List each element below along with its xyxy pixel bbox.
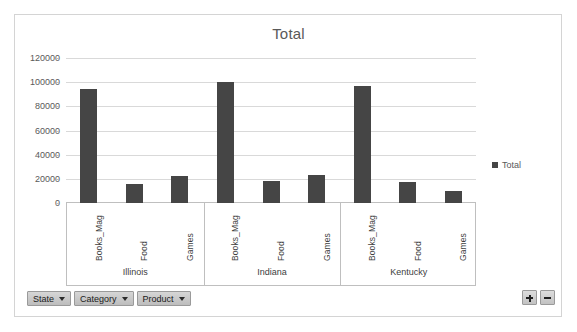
bar[interactable] [354, 86, 371, 203]
y-axis-tick [56, 58, 59, 59]
chevron-down-icon[interactable] [59, 297, 65, 301]
category-axis-label: Books_Mag [94, 215, 104, 261]
group-axis-label: Kentucky [340, 267, 477, 277]
category-axis-label: Books_Mag [230, 215, 240, 261]
detail-level-buttons[interactable] [522, 290, 555, 305]
category-axis-area: Books_MagFoodGamesBooks_MagFoodGamesBook… [66, 203, 476, 286]
y-axis-tick [56, 155, 59, 156]
pivot-chart[interactable]: Total 020000400006000080000100000120000 … [0, 0, 577, 332]
bar[interactable] [80, 89, 97, 203]
category-axis-label: Games [458, 233, 468, 261]
bar[interactable] [308, 175, 325, 203]
bar[interactable] [217, 82, 234, 203]
bar[interactable] [399, 182, 416, 203]
category-axis-label: Games [185, 233, 195, 261]
legend-swatch-total [492, 162, 498, 168]
y-axis-tick [56, 203, 59, 204]
y-axis-labels: 020000400006000080000100000120000 [10, 58, 60, 203]
pivot-field-button-product[interactable]: Product [137, 291, 191, 306]
chevron-down-icon[interactable] [179, 297, 185, 301]
y-axis-tick [56, 179, 59, 180]
pivot-field-button-label: Product [143, 294, 174, 304]
y-axis-tick [56, 131, 59, 132]
legend-label-total: Total [502, 160, 521, 170]
pivot-field-button-state[interactable]: State [27, 291, 71, 306]
pivot-field-button-label: Category [80, 294, 117, 304]
pivot-field-buttons[interactable]: StateCategoryProduct [27, 291, 191, 306]
bar-series-total[interactable] [66, 58, 476, 203]
category-axis-label: Books_Mag [367, 215, 377, 261]
category-axis-label: Food [139, 241, 149, 261]
category-axis-label: Food [413, 241, 423, 261]
pivot-field-button-category[interactable]: Category [74, 291, 134, 306]
category-axis-label: Games [322, 233, 332, 261]
expand-field-button[interactable] [522, 290, 537, 305]
bar[interactable] [126, 184, 143, 203]
group-axis-label: Illinois [67, 267, 204, 277]
pivot-field-button-label: State [33, 294, 54, 304]
chart-title: Total [0, 25, 577, 42]
bar[interactable] [263, 181, 280, 203]
chevron-down-icon[interactable] [122, 297, 128, 301]
bar[interactable] [445, 191, 462, 203]
chart-legend[interactable]: Total [492, 160, 521, 170]
group-axis-label: Indiana [204, 267, 341, 277]
collapse-field-button[interactable] [540, 290, 555, 305]
category-axis-label: Food [276, 241, 286, 261]
y-axis-tick [56, 82, 59, 83]
bar[interactable] [171, 176, 188, 203]
y-axis-tick [56, 106, 59, 107]
